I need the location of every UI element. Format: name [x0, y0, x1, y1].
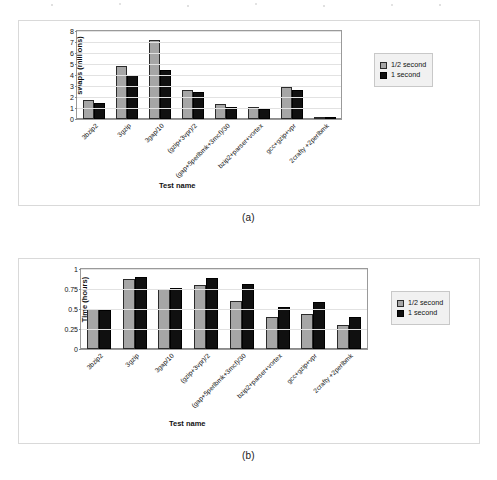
x-axis-title-a: Test name — [159, 181, 196, 190]
y-tick-mark — [79, 289, 81, 290]
legend-swatch-one-second-icon — [380, 72, 387, 79]
legend-item-half-second: 1/2 second — [397, 299, 443, 307]
y-tick-mark — [75, 86, 77, 87]
legend-item-one-second: 1 second — [397, 309, 443, 317]
y-tick-label: 0.25 — [64, 326, 78, 333]
y-tick-label: 3 — [70, 83, 74, 90]
gridline — [77, 42, 341, 43]
bar-one-second — [292, 90, 303, 119]
y-tick-mark — [75, 108, 77, 109]
bar-one-second — [242, 284, 254, 349]
y-tick-mark — [75, 75, 77, 76]
legend-item-one-second: 1 second — [380, 71, 426, 79]
y-tick-mark — [79, 309, 81, 310]
x-tick-label: 3gzip — [123, 352, 139, 368]
y-tick-label: 1 — [74, 266, 78, 273]
x-tick-label: 3bzip2 — [85, 352, 104, 371]
legend-b: 1/2 second 1 second — [391, 291, 450, 325]
x-tick-label: 3gap/10 — [143, 122, 165, 144]
gridline — [81, 289, 367, 290]
x-tick-labels-a: 3bzip23gzip3gap/10(gzip+3vpr)/2(gap+5per… — [77, 119, 341, 120]
gridline — [77, 75, 341, 76]
bar-half-second — [182, 90, 193, 119]
bar-half-second — [281, 87, 292, 119]
y-tick-mark — [75, 97, 77, 98]
x-tick-label: (gzip+3vpr)/2 — [179, 352, 211, 384]
gridline — [77, 97, 341, 98]
gridline — [77, 86, 341, 87]
bar-half-second — [215, 104, 226, 119]
y-tick-mark — [75, 64, 77, 65]
bar-half-second — [301, 314, 313, 349]
gridline — [77, 53, 341, 54]
y-tick-label: 0.75 — [64, 286, 78, 293]
bar-half-second — [230, 301, 242, 349]
legend-item-half-second: 1/2 second — [380, 61, 426, 69]
bar-half-second — [83, 100, 94, 119]
x-tick-label: 3gzip — [115, 122, 131, 138]
x-tick-label: 3bzip2 — [80, 122, 99, 141]
x-tick-label: 2crafty +2perlbmk — [312, 352, 354, 394]
y-tick-label: 4 — [70, 72, 74, 79]
gridline — [81, 329, 367, 330]
panel-caption-b: (b) — [0, 450, 497, 461]
x-tick-label: gcc+gzip+vpr — [286, 352, 319, 385]
x-tick-label: (gap+5perlbmk+3mcf)/30 — [173, 122, 230, 179]
panel-caption-a: (a) — [0, 212, 497, 223]
legend-label-one-second: 1 second — [391, 71, 420, 79]
y-tick-label: 8 — [70, 28, 74, 35]
legend-label-one-second: 1 second — [408, 309, 437, 317]
x-axis-title-b: Test name — [169, 419, 206, 428]
y-tick-label: 1 — [70, 105, 74, 112]
y-tick-label: 0 — [74, 346, 78, 353]
chart-panel-b: Time (hours) 3bzip23gzip3gap/10(gzip+3vp… — [18, 258, 480, 444]
y-tick-mark — [79, 329, 81, 330]
gridline — [81, 309, 367, 310]
bar-one-second — [259, 109, 270, 119]
x-tick-label: gcc+gzip+vpr — [264, 122, 297, 155]
bar-one-second — [349, 317, 361, 349]
y-tick-mark — [79, 269, 81, 270]
y-tick-label: 5 — [70, 61, 74, 68]
y-tick-mark — [75, 31, 77, 32]
legend-swatch-one-second-icon — [397, 310, 404, 317]
legend-label-half-second: 1/2 second — [408, 299, 443, 307]
gridline — [77, 31, 341, 32]
legend-label-half-second: 1/2 second — [391, 61, 426, 69]
gridline — [77, 64, 341, 65]
plot-area-b: Time (hours) 3bzip23gzip3gap/10(gzip+3vp… — [80, 268, 368, 350]
y-tick-mark — [75, 119, 77, 120]
bar-one-second — [94, 103, 105, 120]
y-tick-label: 6 — [70, 50, 74, 57]
y-tick-mark — [79, 349, 81, 350]
y-tick-mark — [75, 53, 77, 54]
gridline — [77, 108, 341, 109]
y-tick-label: 0 — [70, 116, 74, 123]
legend-swatch-half-second-icon — [397, 300, 404, 307]
bar-half-second — [194, 285, 206, 349]
bar-one-second — [170, 288, 182, 349]
legend-a: 1/2 second 1 second — [374, 53, 433, 87]
bar-one-second — [278, 307, 290, 349]
scan-speckle-artifact — [0, 0, 497, 12]
bar-one-second — [135, 277, 147, 349]
y-tick-label: 2 — [70, 94, 74, 101]
bar-half-second — [116, 66, 127, 119]
bar-one-second — [160, 70, 171, 119]
bar-half-second — [158, 289, 170, 349]
chart-panel-a: swaps (millions) 3bzip23gzip3gap/10(gzip… — [18, 20, 480, 206]
bar-one-second — [193, 92, 204, 120]
x-tick-label: 3gap/10 — [154, 352, 176, 374]
y-tick-label: 7 — [70, 39, 74, 46]
plot-area-a: swaps (millions) 3bzip23gzip3gap/10(gzip… — [76, 30, 342, 120]
legend-swatch-half-second-icon — [380, 62, 387, 69]
y-tick-label: 0.5 — [68, 306, 78, 313]
y-tick-mark — [75, 42, 77, 43]
x-tick-label: (gzip+3vpr)/2 — [165, 122, 197, 154]
x-tick-labels-b: 3bzip23gzip3gap/10(gzip+3vpr)/2(gap+5per… — [81, 349, 367, 350]
bar-half-second — [266, 317, 278, 349]
gridline — [81, 269, 367, 270]
